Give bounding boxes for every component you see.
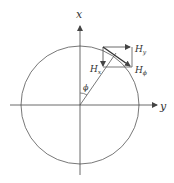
y-axis-label: y xyxy=(159,100,167,113)
radius-line xyxy=(80,53,116,105)
x-axis-label: x xyxy=(76,8,83,21)
hx-label: Hx xyxy=(89,64,102,75)
hphi-vector xyxy=(103,47,130,66)
angle-arc xyxy=(80,93,87,95)
phi-label: ϕ xyxy=(83,83,89,92)
hy-label: Hy xyxy=(134,44,147,56)
hphi-label: Hϕ xyxy=(134,65,147,77)
diagram-canvas: x y ϕ Hy Hx Hϕ xyxy=(0,0,174,183)
